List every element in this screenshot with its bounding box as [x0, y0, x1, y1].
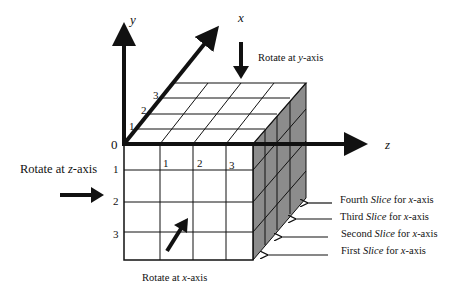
origin-label: 0	[111, 137, 118, 152]
z-tick-2: 2	[197, 157, 203, 169]
y-tick-1: 1	[113, 163, 119, 175]
x-tick-3: 3	[153, 89, 159, 101]
slice-label-third: Third Slice for x-axis	[340, 211, 429, 222]
cube-rotation-diagram: y x z 0 1 2 3 1 2 3 1 2 3 Rotate at y-ax…	[0, 0, 462, 294]
rotate-z-label: Rotate at z-axis	[20, 162, 97, 176]
y-tick-2: 2	[113, 195, 119, 207]
x-axis-label: x	[237, 10, 244, 25]
z-axis-label: z	[384, 137, 390, 152]
rotate-y-label: Rotate at y-axis	[258, 52, 323, 63]
x-tick-2: 2	[141, 104, 147, 116]
slice-label-second: Second Slice for x-axis	[341, 228, 438, 239]
y-axis-label: y	[128, 12, 136, 27]
z-tick-1: 1	[163, 157, 169, 169]
slice-label-first: First Slice for x-axis	[341, 245, 426, 256]
x-tick-1: 1	[129, 120, 135, 132]
rotate-y-arrow-icon	[233, 42, 249, 79]
rotate-z-arrow-icon	[60, 187, 104, 203]
rotate-x-label: Rotate at x-axis	[142, 272, 207, 283]
z-tick-3: 3	[229, 159, 235, 171]
slice-label-fourth: Fourth Slice for x-axis	[340, 194, 434, 205]
y-tick-3: 3	[113, 228, 119, 240]
